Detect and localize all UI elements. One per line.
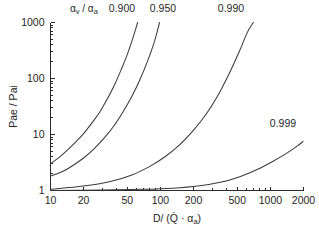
curve-label-0-900: 0.900	[109, 2, 135, 14]
x-tick-label: 100	[152, 194, 170, 206]
x-tick-label: 500	[229, 194, 247, 206]
curve-0-950	[51, 23, 160, 177]
curve-0-900	[51, 23, 138, 164]
legend-separator: / α	[80, 3, 94, 14]
y-tick-label: 10	[33, 128, 45, 140]
curve-label-0-950: 0.950	[150, 2, 176, 14]
y-tick-label: 1000	[21, 16, 45, 28]
x-tick-label: 50	[122, 194, 134, 206]
x-title-part-1: D/ (Q̇ · α	[153, 212, 193, 224]
x-tick-label: 1000	[259, 194, 283, 206]
subscript-a: a	[94, 7, 99, 16]
figure-container: 110100100010205010020050010002000 0.9000…	[0, 0, 319, 232]
x-tick-label: 20	[78, 194, 90, 206]
legend-title: αv / αa	[70, 3, 99, 16]
curve-label-0-990: 0.990	[218, 2, 244, 14]
curve-0-999	[51, 141, 304, 190]
x-title-part-3: )	[198, 212, 202, 224]
x-axis-title: D/ (Q̇ · αa)	[153, 212, 201, 226]
x-tick-label: 10	[45, 194, 57, 206]
x-tick-label: 200	[185, 194, 203, 206]
y-axis-title: Pae / Pai	[7, 85, 19, 128]
y-tick-label: 100	[27, 72, 45, 84]
curve-label-0-999: 0.999	[270, 117, 296, 129]
log-log-chart: 110100100010205010020050010002000 0.9000…	[0, 0, 319, 232]
curves-group	[51, 23, 304, 191]
curve-0-990	[51, 23, 254, 190]
axes-group: 110100100010205010020050010002000	[21, 16, 315, 205]
x-tick-label: 2000	[292, 194, 316, 206]
